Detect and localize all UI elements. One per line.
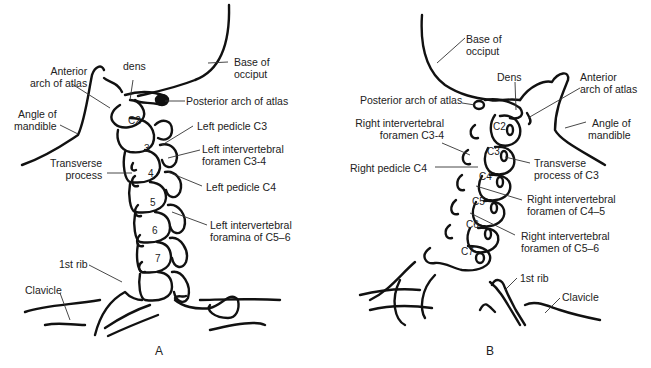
- label-posterior-arch-a: Posterior arch of atlas: [186, 95, 288, 107]
- label-clavicle-b: Clavicle: [562, 291, 599, 303]
- label-transverse-process-c3: Transverseprocess of C3: [534, 157, 599, 181]
- label-left-iv-foramina-c56: Left intervertebralforamina of C5–6: [210, 219, 292, 243]
- label-first-rib-b: 1st rib: [520, 272, 549, 284]
- label-left-pedicle-c3: Left pedicle C3: [197, 120, 267, 132]
- vertebra-label: 7: [155, 253, 161, 264]
- label-left-pedicle-c4: Left pedicle C4: [206, 181, 276, 193]
- label-left-iv-foramen-c34: Left intervertebralforamen C3-4: [202, 143, 284, 167]
- vertebra-label: C2: [128, 115, 141, 126]
- diagram-canvas: [0, 0, 651, 368]
- label-right-iv-foramen-c45: Right intervertebralforamen of C4–5: [527, 193, 616, 217]
- label-base-occiput-a: Base ofocciput: [234, 56, 270, 80]
- label-first-rib-a: 1st rib: [59, 258, 88, 270]
- label-dens-a: dens: [123, 60, 146, 72]
- label-posterior-arch-b: Posterior arch of atlas: [360, 94, 462, 106]
- vertebra-label: 3: [144, 143, 150, 154]
- label-anterior-arch-b: Anteriorarch of atlas: [580, 71, 637, 95]
- vertebra-label: 4: [148, 168, 154, 179]
- vertebra-label: C2: [493, 121, 506, 132]
- label-dens-b: Dens: [497, 71, 522, 83]
- vertebra-label: C7: [461, 246, 474, 257]
- label-angle-mandible-b: Angle ofmandible: [588, 117, 631, 141]
- label-right-iv-foramen-c34: Right intervertebralforamen C3-4: [352, 117, 444, 141]
- label-base-occiput-b: Base ofocciput: [466, 33, 502, 57]
- vertebra-label: C6: [466, 219, 479, 230]
- label-angle-mandible-a: Angle ofmandible: [14, 108, 57, 132]
- label-anterior-arch-a: Anteriorarch of atlas: [30, 65, 87, 89]
- panel-letter-a: A: [155, 344, 163, 358]
- vertebra-label: C3: [487, 146, 500, 157]
- label-right-pedicle-c4: Right pedicle C4: [350, 162, 427, 174]
- label-clavicle-a: Clavicle: [25, 284, 62, 296]
- label-transverse-process-a: Transverseprocess: [50, 157, 102, 181]
- vertebra-label: C5: [472, 196, 485, 207]
- vertebra-label: C4: [479, 171, 492, 182]
- label-right-iv-foramen-c56: Right intervertebralforamen of C5–6: [521, 230, 610, 254]
- panel-letter-b: B: [486, 344, 494, 358]
- vertebra-label: 6: [152, 225, 158, 236]
- vertebra-label: 5: [150, 197, 156, 208]
